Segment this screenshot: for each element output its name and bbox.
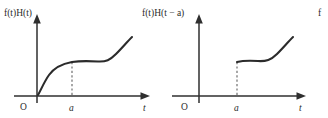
panel-3-expression-label-cut: f	[318, 8, 322, 18]
panel-1-origin-label: O	[20, 102, 27, 112]
panel-2-origin-label: O	[181, 102, 188, 112]
panel-2-x-tick-label-a: a	[234, 103, 239, 113]
heaviside-step-figure: f(t)H(t) O a t f(t)H(t − a)	[0, 0, 328, 118]
panel-1: f(t)H(t) O a t	[4, 8, 150, 113]
panel-1-curve	[38, 37, 132, 95]
panel-2-x-axis-label: t	[299, 103, 302, 113]
panel-2-expression-label: f(t)H(t − a)	[142, 8, 184, 19]
panel-2-curve	[237, 37, 293, 62]
panel-1-expression-label: f(t)H(t)	[4, 8, 32, 19]
panel-1-x-axis-label: t	[143, 103, 146, 113]
panel-1-horizontal-axis-arrowhead	[141, 92, 151, 100]
figure-root: f(t)H(t) O a t f(t)H(t − a)	[0, 0, 328, 118]
panel-2: f(t)H(t − a) O a t	[142, 8, 306, 113]
panel-2-horizontal-axis-arrowhead	[297, 92, 307, 100]
panel-1-x-tick-label-a: a	[69, 103, 74, 113]
panel-1-vertical-axis-arrowhead	[33, 14, 41, 24]
panel-3-cut: f	[318, 8, 322, 18]
panel-2-vertical-axis-arrowhead	[195, 14, 203, 24]
